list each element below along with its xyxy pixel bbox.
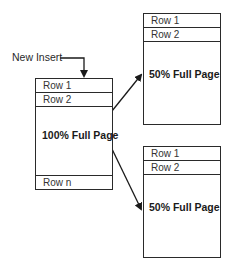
split-page-top: Row 1 Row 2 50% Full Page — [143, 13, 221, 125]
split-top-row-1: Row 1 — [144, 14, 220, 28]
split-top-row-2: Row 2 — [144, 28, 220, 42]
split-top-fill-label: 50% Full Page — [149, 68, 220, 80]
split-arrow-bottom — [112, 149, 141, 209]
source-row-1: Row 1 — [36, 79, 112, 93]
new-insert-label: New Insert — [12, 51, 62, 63]
split-bottom-row-2: Row 2 — [144, 161, 220, 175]
insert-arrow — [60, 58, 84, 76]
source-fill-label: 100% Full Page — [42, 129, 118, 141]
split-page-bottom: Row 1 Row 2 50% Full Page — [143, 146, 221, 258]
split-bottom-fill-label: 50% Full Page — [149, 201, 220, 213]
split-bottom-row-1: Row 1 — [144, 147, 220, 161]
split-arrow-top — [112, 75, 141, 111]
source-row-n: Row n — [36, 175, 112, 190]
source-row-2: Row 2 — [36, 93, 112, 107]
source-page: Row 1 Row 2 100% Full Page Row n — [35, 78, 113, 190]
